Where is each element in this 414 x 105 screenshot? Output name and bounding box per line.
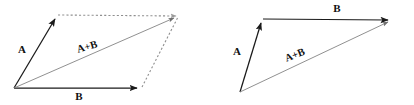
vector-sum-arrow-left — [14, 18, 174, 88]
construction-line-top-dotted — [58, 15, 176, 16]
vector-a-arrow-right — [240, 23, 261, 92]
label-vector-sum-right: A+B — [283, 46, 306, 64]
label-vector-a-left: A — [18, 43, 26, 55]
vector-sum-arrow-right — [240, 22, 388, 92]
vector-addition-figure: A B A+B A B A+B — [0, 0, 414, 105]
label-vector-b-left: B — [75, 90, 83, 102]
triangle-rule-group: A B A+B — [233, 2, 388, 92]
parallelogram-rule-group: A B A+B — [14, 15, 178, 102]
construction-line-right-dotted — [142, 18, 178, 87]
label-vector-a-right: A — [233, 45, 241, 57]
label-vector-b-right: B — [333, 2, 341, 14]
vector-b-arrow-right — [263, 19, 388, 20]
vector-diagram-canvas: A B A+B A B A+B — [0, 0, 414, 105]
